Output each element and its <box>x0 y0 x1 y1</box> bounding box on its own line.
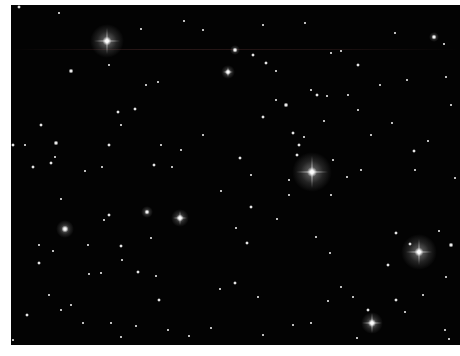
star <box>310 322 313 325</box>
star <box>136 270 140 274</box>
star <box>412 149 416 153</box>
star <box>327 300 330 303</box>
star <box>347 94 350 97</box>
bright-star <box>225 69 231 75</box>
star <box>448 338 451 341</box>
star <box>157 298 161 302</box>
star <box>210 327 213 330</box>
star <box>17 5 21 9</box>
star <box>394 32 397 35</box>
star <box>24 144 27 147</box>
star <box>257 296 260 299</box>
star <box>357 109 360 112</box>
star <box>70 304 73 307</box>
star <box>54 156 57 159</box>
bright-star <box>368 319 376 327</box>
star <box>160 144 163 147</box>
star <box>249 205 253 209</box>
star <box>310 89 313 92</box>
star <box>60 309 63 312</box>
star <box>155 275 158 278</box>
star <box>250 174 253 177</box>
star <box>238 156 242 160</box>
star <box>202 29 205 32</box>
star <box>11 143 15 147</box>
bright-star <box>62 226 69 233</box>
star <box>121 259 124 262</box>
star <box>107 213 111 217</box>
star <box>394 231 398 235</box>
star <box>261 115 265 119</box>
star <box>297 143 301 147</box>
star <box>49 161 53 165</box>
star <box>332 159 335 162</box>
star <box>288 179 291 182</box>
star <box>329 252 332 255</box>
star <box>69 69 74 74</box>
bright-star <box>145 210 150 215</box>
star <box>330 194 333 197</box>
star <box>245 241 249 245</box>
star <box>120 124 123 127</box>
star <box>116 110 120 114</box>
star <box>394 298 398 302</box>
star <box>404 311 407 314</box>
star <box>356 63 360 67</box>
star <box>58 12 61 15</box>
star <box>133 107 137 111</box>
star <box>251 53 255 57</box>
star <box>152 163 156 167</box>
star <box>444 329 447 332</box>
star <box>87 244 90 247</box>
star <box>25 313 29 317</box>
star <box>264 61 268 65</box>
star <box>427 140 430 143</box>
star <box>323 120 326 123</box>
star <box>120 336 123 339</box>
star <box>233 281 237 285</box>
bright-star <box>307 167 317 177</box>
star <box>304 22 307 25</box>
bright-star <box>415 248 424 257</box>
star <box>445 276 448 279</box>
star <box>220 190 223 193</box>
star <box>171 166 174 169</box>
star <box>108 64 111 67</box>
star <box>406 79 409 82</box>
star <box>219 288 222 291</box>
star <box>202 134 205 137</box>
star <box>31 165 35 169</box>
star <box>82 322 85 325</box>
star <box>39 123 43 127</box>
star-field-image <box>11 5 460 345</box>
star <box>303 136 306 139</box>
star <box>235 227 238 230</box>
star <box>360 169 363 172</box>
star <box>276 218 279 221</box>
star <box>140 28 143 31</box>
star <box>379 84 382 87</box>
star <box>188 335 191 338</box>
star <box>284 103 289 108</box>
star <box>103 219 106 222</box>
star <box>340 50 343 53</box>
star <box>346 176 349 179</box>
bright-star <box>233 48 238 53</box>
star <box>150 237 153 240</box>
star <box>275 70 278 73</box>
star <box>326 95 329 98</box>
star <box>291 131 295 135</box>
star <box>183 20 186 23</box>
star <box>438 230 441 233</box>
star <box>315 236 318 239</box>
star <box>262 24 265 27</box>
star <box>422 294 425 297</box>
star <box>100 272 103 275</box>
star <box>315 93 319 97</box>
star <box>262 334 265 337</box>
star <box>391 122 394 125</box>
star <box>145 84 148 87</box>
star <box>37 261 41 265</box>
star <box>443 43 446 46</box>
star <box>449 243 454 248</box>
